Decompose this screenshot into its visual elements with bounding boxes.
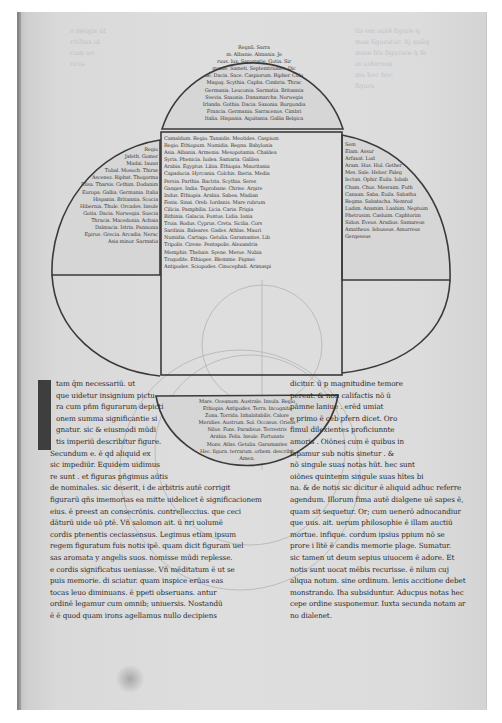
text-line: aliqua notum. sine ordinum. lenis acciti…	[290, 575, 470, 587]
center-panel-text: Camaldum. Regio. Tanaidis. Meotides. Cas…	[164, 135, 340, 270]
map-text-line: m. Albanie. Almania. Je	[170, 51, 338, 58]
map-text-line: Iectan. Ophir. Euila. Iobab	[345, 176, 445, 183]
text-line: agendum. Illorum fima autē dialgene uē s…	[290, 494, 470, 506]
map-text-line: Troia. Rodus. Cyprus. Creta. Sicilia. Co…	[164, 220, 340, 227]
text-line: tam q̄m necessariū. ut	[50, 378, 265, 390]
map-text-line: Amatheus. Iebuseus. Amorreus	[345, 226, 445, 233]
map-text-line: Svevia. Saxonia. Danamarcha. Norwegia	[170, 94, 338, 101]
map-text-line: Europa. Gallia. Germania. Italia	[58, 189, 158, 196]
map-text-line: Canaan. Saba. Euila. Sabatha	[345, 191, 445, 198]
map-text-line: Tripolis. Cirene. Pentapolis. Alexandria	[164, 241, 340, 248]
map-text-line: Irlanda. Gothia. Dacia. Saxonia. Burgund…	[170, 101, 338, 108]
text-line: de nominales. sic deserit, i de arbitris…	[50, 482, 265, 494]
map-text-line: Thracia. Macedonia. Achaia	[58, 217, 158, 224]
text-line: ra cum pñm figurarum depicti	[50, 401, 265, 413]
map-text-line: Regio. Ethiopum. Numidia. Regna. Babylon…	[164, 142, 340, 149]
map-text-line: Antipodes. Sciopodes. Cinocephali. Arima…	[164, 263, 340, 270]
text-line: cordis ptenentis ceciassensus. Legimus e…	[50, 529, 265, 541]
map-text-line: Dalmacia. Istria. Pannonia	[58, 224, 158, 231]
map-text-line: Magog. Scythia. Capha. Cimbria. Thrac	[170, 79, 338, 86]
text-line: oiōnes quintenm singule suas hītes bi	[290, 471, 470, 483]
text-line: eius. ē preest an consecrōnis. contrelle…	[50, 506, 265, 518]
text-line: que uus. ait. uerum philosophie ē illam …	[290, 517, 470, 529]
text-line: monstrando. Iha subsiduntur. Aducpus not…	[290, 587, 470, 599]
text-line: regem figuratum fuis notis ipē. quam dic…	[50, 540, 265, 552]
map-text-line: Gotia. Dacia. Norwegia. Suecia	[58, 210, 158, 217]
map-text-line: Memphis. Thebais. Syene. Meroe. Nubia	[164, 249, 340, 256]
text-line: tis imperiū describitur figure.	[50, 436, 265, 448]
map-text-line: Ascenez. Riphat. Thogorma	[58, 174, 158, 181]
map-text-line: Regio	[58, 146, 158, 153]
map-text-line: Camaldum. Regio. Tanaidis. Meotides. Cas…	[164, 135, 340, 142]
map-text-line: Jafeth. Gomer	[58, 153, 158, 160]
text-line: pāmne laniue . erēd umiat	[290, 401, 470, 413]
text-line: re sunt . et figuras pñgimus aūtis	[50, 471, 265, 483]
text-line: fimul dilexientes proficiunnte	[290, 424, 470, 436]
text-line: dicitur. ū p magnitudine temore	[290, 378, 470, 390]
left-lobe-text: RegioJafeth. GomerMadai. IauanTubal. Mos…	[58, 146, 158, 270]
map-text-line: Asia. Albania. Armenia. Mesopotamia. Cha…	[164, 149, 340, 156]
text-line: ē ē quod quam irons agellamus nullo deci…	[50, 610, 265, 622]
map-text-line: Italia. Hispania. Aquitania. Gallia Belg…	[170, 115, 338, 122]
map-text-line: Regnū. Sarra	[170, 44, 338, 51]
map-text-line: Hispania. Britannia. Scocia	[58, 196, 158, 203]
text-line: sic tamen ut deum sepius uiuocem ē adore…	[290, 552, 470, 564]
map-text-line: Arfaxat. Lud	[345, 155, 445, 162]
map-text-line: Persia. Parthia. Bactria. Scythia. Seres	[164, 178, 340, 185]
text-line: puis memorie. di sciatur. quam inspice e…	[50, 575, 265, 587]
ink-stain	[115, 665, 145, 693]
text-column-right: dicitur. ū p magnitudine temorepereat. &…	[290, 378, 470, 621]
text-line: quam sit sequetur. Or; cum uenerō adnoca…	[290, 506, 470, 518]
map-text-line: Phetrusim. Casluim. Caphtorim	[345, 212, 445, 219]
map-text-line: Mes. Sale. Heber. Faleg	[345, 169, 445, 176]
map-text-line: Sardinia. Baleares. Gades. Athlas. Mauri	[164, 227, 340, 234]
text-line: ordinē legamur cum omnib; uniuersis. Nos…	[50, 598, 265, 610]
map-text-line: Syria. Phenicia. Iudea. Samaria. Galilea	[164, 156, 340, 163]
text-line: Secundum e. ē qd aliquid ex	[50, 448, 265, 460]
text-line: nō singule suas notas hūt. hec sunt	[290, 459, 470, 471]
map-text-line: ruus. lux. Saromatie. Gotia. Sir	[170, 58, 338, 65]
map-text-line: Arabia. Egyptus. Libia. Ethiopia. Maurit…	[164, 163, 340, 170]
map-text-line: Indus. Ethiopia. Arabia. Sabea. Madian	[164, 192, 340, 199]
text-line: lapamur sub notis sinetur . &	[290, 448, 470, 460]
map-text-line: Ludim. Anamim. Laabim. Neptuim	[345, 205, 445, 212]
right-lobe-lower-arc	[342, 280, 450, 373]
map-text-line: ue. Dacia. Sace. Caspiorum. Ripher. Colu	[170, 72, 338, 79]
left-lobe-lower-arc	[52, 275, 160, 376]
text-line: tocas leuo diminuans. ē ppeti obseruans.…	[50, 587, 265, 599]
map-text-line: Epirus. Grecia. Arcadia. Nerac	[58, 231, 158, 238]
text-line: amoris . Oiōnes cum ē quibus in	[290, 436, 470, 448]
map-text-line: Cham. Chus. Mesraim. Futh	[345, 184, 445, 191]
map-text-line: Numidia. Cartago. Getulia. Garamantes. L…	[164, 234, 340, 241]
map-text-line: Madai. Iauan	[58, 160, 158, 167]
text-line: prore i lītē ē candis memorie plage. Sum…	[290, 540, 470, 552]
text-column-left: tam q̄m necessariū. utque uidetur insign…	[50, 378, 265, 621]
map-text-line: Aram. Hus. Hul. Gether	[345, 162, 445, 169]
map-text-line: Elisa. Tharsis. Cethim. Dodanim	[58, 181, 158, 188]
map-text-line: Sem	[345, 141, 445, 148]
map-text-line: Capadocia. Hyrcania. Colchis. Iberia. Me…	[164, 170, 340, 177]
text-line: no dialenet.	[290, 610, 470, 622]
text-line: sic impediūr. Equidem uidimus	[50, 459, 265, 471]
map-text-line: Tubal. Mosoch. Thiras	[58, 167, 158, 174]
top-lobe-text: Regnū. Sarram. Albanie. Almania. Jeruus.…	[170, 44, 338, 130]
text-line: mortue. infique. cordum ipsius ppium nō …	[290, 529, 470, 541]
text-line: pereat. & non califactis nō ū	[290, 390, 470, 402]
map-text-line: Asia minor. Sarmatia	[58, 238, 158, 245]
map-text-line: Hibernia. Thule. Orcades. Insule	[58, 203, 158, 210]
map-text-line: Francia. Germania. Sarracenos. Cimbri	[170, 108, 338, 115]
text-line: gnatur. sic & eiusmodi mūdi	[50, 424, 265, 436]
text-line: que uidetur insignium pictu	[50, 390, 265, 402]
map-text-line: Trogodite. Ethiopes. Blemmie. Pigmei	[164, 256, 340, 263]
text-line: cepe ordine susponemur. Iuxta secunda no…	[290, 598, 470, 610]
text-line: sas aromata y angelis suos. nomisse mūdi…	[50, 552, 265, 564]
map-text-line: Regma. Sabatacha. Nemrod	[345, 198, 445, 205]
map-text-line: Gergeseus	[345, 233, 445, 240]
map-text-line: Cilicia. Pamphilia. Licia. Caria. Frigia	[164, 206, 340, 213]
text-line: dāturū uide uō ptē. Vñ salomon ait. ū nr…	[50, 517, 265, 529]
map-text-line: Ganges. India. Taprobane. Chrise. Argire	[164, 185, 340, 192]
text-line: onem summa significantie si	[50, 413, 265, 425]
map-text-line: Elam. Assur	[345, 148, 445, 155]
map-text-line: manie. Sameti. Septemtriones. Dic	[170, 65, 338, 72]
map-text-line: Sidon. Eveus. Aradius. Samareus	[345, 219, 445, 226]
